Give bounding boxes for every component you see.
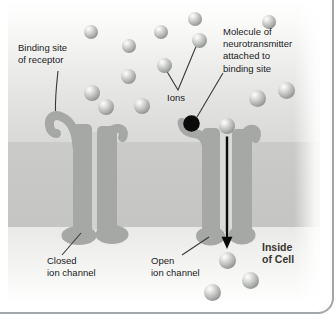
leader-open-channel: [182, 237, 209, 255]
label-open-channel: Open ion channel: [151, 255, 200, 279]
open-ion-channel: [182, 123, 257, 246]
leader-binding-site: [55, 71, 58, 111]
receptor-binding-site-arm: [49, 116, 77, 147]
label-neurotransmitter: Molecule of neurotransmitter attached to…: [223, 26, 292, 75]
figure-panel: Binding site of receptor Ions Molecule o…: [0, 0, 336, 322]
neurotransmitter-molecule: [183, 115, 200, 132]
open-channel-right-foot: [229, 226, 256, 245]
label-closed-channel: Closed ion channel: [47, 255, 96, 279]
leader-ions: [166, 47, 197, 91]
label-binding-site: Binding site of receptor: [18, 42, 67, 66]
closed-channel-right-foot: [96, 225, 129, 244]
label-ions: Ions: [167, 92, 185, 104]
arrowhead: [222, 237, 233, 249]
closed-ion-channel: [49, 116, 128, 245]
closed-channel-pore: [92, 132, 97, 230]
right-fade: [294, 0, 332, 308]
label-inside-of-cell: Inside of Cell: [262, 241, 294, 266]
leader-neurotransmitter: [197, 73, 223, 117]
